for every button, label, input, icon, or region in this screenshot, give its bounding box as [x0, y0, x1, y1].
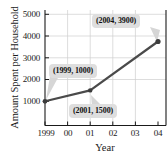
- x-tick-label-00: 00: [64, 128, 73, 138]
- annotation-2004: (2004, 3900): [92, 14, 140, 28]
- x-tick-label-01: 01: [86, 128, 95, 138]
- x-tick-label-03: 03: [131, 128, 140, 138]
- y-axis-title: Amount Spent per Household: [9, 0, 20, 138]
- x-axis-title: Year: [44, 142, 166, 153]
- annotation-2001: (2001, 1500): [69, 104, 117, 118]
- line-chart-figure: 5000 4000 3000 2000 1000 1999 00 01 02 0…: [0, 0, 168, 161]
- x-tick-label-1999: 1999: [37, 128, 54, 138]
- annotation-1999: (1999, 1000): [49, 64, 97, 78]
- x-tick-label-02: 02: [109, 128, 118, 138]
- x-tick-label-04: 04: [154, 128, 163, 138]
- x-tick-marks: [45, 122, 158, 126]
